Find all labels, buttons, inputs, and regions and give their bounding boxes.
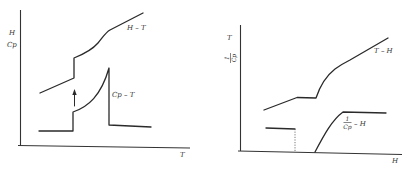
right-x-axis [238, 151, 402, 155]
curve-t-vs-h [264, 38, 388, 110]
label-inv-cp-h: 1 Cp – H [343, 115, 366, 131]
arrow-up-icon [72, 89, 76, 95]
curve-cp-vs-t [39, 68, 151, 131]
svg-text:1: 1 [223, 56, 230, 60]
right-y-label-inv-cp: 1 Cp [223, 53, 238, 63]
left-chart: H Cp T H – T Cp – T [7, 10, 190, 159]
right-y-label-t: T [227, 34, 233, 42]
label-cp-t: Cp – T [112, 91, 136, 99]
curve-inv-cp-vs-h-part2 [315, 112, 386, 152]
curve-inv-cp-vs-h-part1 [266, 128, 295, 129]
left-x-label-t: T [180, 151, 186, 159]
right-x-label-h: H [391, 157, 399, 165]
left-y-label-cp: Cp [7, 41, 17, 49]
svg-text:1: 1 [346, 115, 350, 122]
label-t-h: T – H [374, 47, 394, 55]
figure: H Cp T H – T Cp – T T 1 Cp H T – H 1 [0, 0, 410, 170]
svg-text:Cp: Cp [343, 123, 352, 131]
label-h-t: H – T [126, 24, 147, 32]
svg-text:– H: – H [354, 120, 367, 128]
left-y-label-h: H [8, 29, 16, 37]
svg-text:Cp: Cp [230, 54, 238, 63]
right-chart: T 1 Cp H T – H 1 Cp – H [223, 25, 402, 165]
left-x-axis [18, 146, 190, 149]
